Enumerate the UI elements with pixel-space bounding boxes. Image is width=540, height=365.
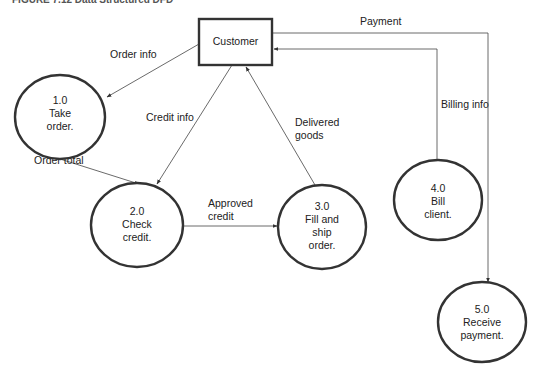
- process-label: order.: [47, 120, 74, 132]
- flow-label: Payment: [360, 15, 402, 27]
- flow-label: goods: [295, 129, 324, 141]
- process-label: Take: [49, 107, 71, 119]
- flow-label: Delivered: [295, 116, 340, 128]
- process-label: Fill and: [305, 213, 339, 225]
- process-3-fill-and-ship[interactable]: 3.0 Fill and ship order.: [278, 185, 366, 269]
- flow-label: Billing info: [441, 98, 489, 110]
- process-number: 2.0: [130, 205, 145, 217]
- flow-billing-info: Billing info: [274, 49, 489, 160]
- process-number: 1.0: [53, 94, 68, 106]
- dfd-diagram: FIGURE 7.12 Data Structured DFD Order in…: [0, 0, 540, 365]
- process-number: 5.0: [475, 303, 490, 315]
- flow-delivered-goods: Delivered goods: [246, 67, 340, 185]
- process-number: 4.0: [431, 182, 446, 194]
- arrow-line: [274, 49, 437, 160]
- figure-caption: FIGURE 7.12 Data Structured DFD: [12, 0, 173, 5]
- process-5-receive-payment[interactable]: 5.0 Receive payment.: [438, 282, 526, 362]
- process-number: 3.0: [315, 200, 330, 212]
- flow-label: Approved: [208, 197, 253, 209]
- process-label: order.: [309, 239, 336, 251]
- process-4-bill-client[interactable]: 4.0 Bill client.: [394, 160, 482, 240]
- flow-label: credit: [208, 210, 234, 222]
- flow-credit-info: Credit info: [146, 65, 232, 184]
- arrow-line: [157, 65, 232, 184]
- flow-approved-credit: Approved credit: [183, 197, 277, 226]
- process-2-check-credit[interactable]: 2.0 Check credit.: [91, 183, 183, 267]
- process-label: Receive: [463, 316, 501, 328]
- entity-customer[interactable]: Customer: [199, 19, 272, 65]
- process-1-take-order[interactable]: 1.0 Take order.: [15, 75, 105, 159]
- flow-order-info: Order info: [107, 44, 199, 97]
- flow-label: Credit info: [146, 111, 194, 123]
- process-label: ship: [312, 226, 331, 238]
- process-label: payment.: [460, 329, 503, 341]
- process-label: Check: [122, 218, 153, 230]
- process-label: Bill: [431, 195, 445, 207]
- flow-label: Order info: [110, 48, 157, 60]
- entity-label: Customer: [213, 35, 259, 47]
- process-label: credit.: [123, 231, 152, 243]
- process-label: client.: [424, 208, 451, 220]
